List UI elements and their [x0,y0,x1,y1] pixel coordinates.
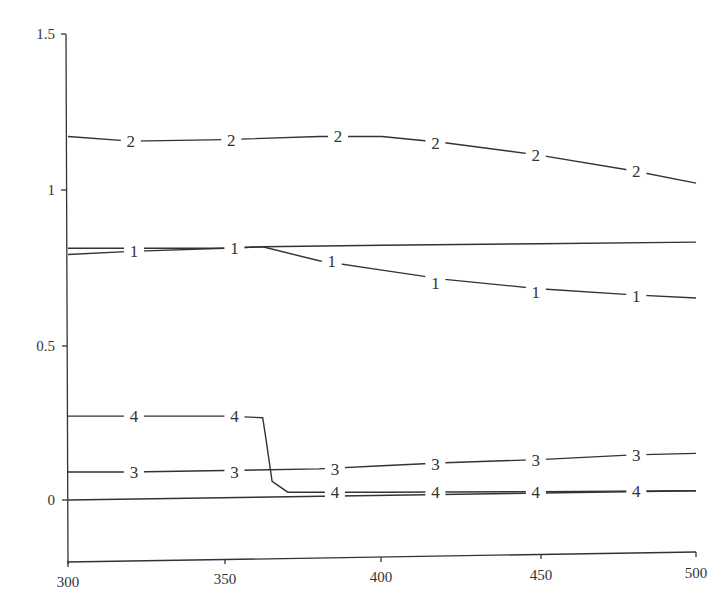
curve-label: 4 [431,483,440,502]
curve-label: 3 [632,446,641,465]
curve-label: 2 [532,146,541,165]
series-line-2 [68,247,696,298]
y-axis [66,34,68,564]
y-tick-label: 1 [48,182,56,198]
curve-label: 1 [230,239,239,258]
x-tick-labels: 300 350 400 450 500 [57,565,708,590]
curves [68,137,696,501]
y-tick-label: 0.5 [36,338,55,354]
curve-label: 2 [127,132,136,151]
curve-label: 4 [532,483,541,502]
curve-labels: 222222111111444444333333 [121,127,647,502]
series-line-1 [68,242,696,248]
curve-label: 3 [431,455,440,474]
curve-label: 1 [532,283,541,302]
curve-label: 3 [331,460,340,479]
curve-label: 3 [230,463,239,482]
curve-label: 1 [632,287,641,306]
curve-label: 4 [331,483,340,502]
y-tick-label: 1.5 [36,26,55,42]
curve-label: 2 [431,134,440,153]
series-line-4 [68,453,696,472]
x-tick-label: 400 [370,569,393,585]
curve-label: 2 [632,162,641,181]
y-tick-labels: 1.5 1 0.5 0 [36,26,55,508]
curve-label: 2 [227,131,236,150]
curve-label: 2 [334,127,343,146]
y-tick-label: 0 [48,492,56,508]
curve-label: 4 [130,407,139,426]
curve-label: 4 [230,407,239,426]
curve-label: 3 [532,451,541,470]
x-tick-label: 450 [530,567,553,583]
curve-label: 1 [431,274,440,293]
series-line-3 [68,416,696,492]
curve-label: 4 [632,482,641,501]
curve-label: 1 [130,242,139,261]
curve-label: 1 [328,252,337,271]
x-tick-label: 500 [685,565,708,581]
line-chart: 1.5 1 0.5 0 300 350 400 450 500 22222211… [0,0,728,615]
curve-label: 3 [130,463,139,482]
series-line-0 [68,137,696,184]
x-tick-label: 300 [57,574,80,590]
x-tick-label: 350 [214,571,237,587]
x-ticks [68,552,696,567]
